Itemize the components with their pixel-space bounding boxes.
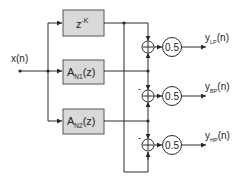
delay-block: z-K — [63, 10, 104, 36]
input-label: x(n) — [11, 53, 28, 64]
output-lp-label: yLP(n) — [205, 32, 229, 45]
adder-bp-minus-sign: - — [138, 84, 141, 94]
allpass2-block: AN2(z) — [63, 109, 104, 134]
adder-hp-minus-sign: - — [138, 133, 141, 143]
svg-text:0.5: 0.5 — [165, 42, 179, 53]
output-hp-label: yHP(n) — [205, 130, 230, 143]
allpass1-block: AN1(z) — [63, 60, 104, 84]
adder-bp: - — [138, 84, 154, 102]
filter-block-diagram: x(n) z-K AN1(z) AN2(z) - — [0, 0, 243, 183]
svg-text:0.5: 0.5 — [165, 91, 179, 102]
adder-lp — [142, 41, 154, 53]
adder-hp: - — [138, 133, 154, 151]
gain-lp: 0.5 — [163, 38, 182, 57]
gain-hp: 0.5 — [163, 136, 182, 155]
output-bp-label: yBP(n) — [205, 81, 230, 94]
gain-bp: 0.5 — [163, 87, 182, 106]
svg-text:0.5: 0.5 — [165, 140, 179, 151]
